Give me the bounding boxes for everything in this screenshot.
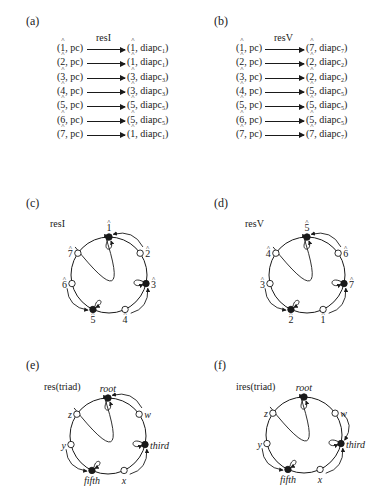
edge-arrow: [112, 394, 142, 408]
circle-graph-c: 1^2^3^4^5^6^7^5^6^7^1^2^3^4^rootwthirdxf…: [0, 0, 381, 498]
node-label: x: [317, 474, 323, 485]
self-loop-arrow: [95, 300, 101, 307]
filled-node: [301, 394, 307, 400]
edge-arrow: [74, 395, 113, 442]
node-label: y: [61, 440, 67, 451]
node-label: y: [257, 439, 263, 450]
self-loop-arrow: [332, 280, 341, 286]
edge-arrow: [67, 288, 88, 310]
filled-node: [341, 280, 347, 286]
open-node: [317, 466, 323, 472]
open-node: [136, 411, 142, 417]
open-node: [75, 250, 81, 256]
edge-arrow: [273, 234, 312, 281]
node-label: third: [346, 439, 366, 450]
edge-arrow: [326, 448, 343, 473]
open-node: [267, 280, 273, 286]
edge-arrow: [75, 234, 114, 281]
open-node: [273, 250, 279, 256]
filled-node: [285, 466, 291, 472]
open-node: [68, 441, 74, 447]
filled-node: [106, 234, 112, 240]
graph-res(triad): rootwthirdxfifthyz: [61, 383, 171, 486]
filled-node: [89, 467, 95, 473]
open-node: [335, 250, 341, 256]
edge-arrow: [262, 448, 283, 470]
node-label: fifth: [280, 474, 296, 485]
node-label: z: [263, 408, 268, 419]
edge-arrow: [270, 394, 309, 441]
node-label: w: [144, 409, 151, 420]
node-label: third: [150, 440, 170, 451]
filled-node: [304, 234, 310, 240]
node-label: z: [67, 409, 72, 420]
filled-node: [143, 280, 149, 286]
self-loop-arrow: [94, 461, 100, 468]
self-loop-arrow: [134, 280, 143, 286]
edge-arrow: [131, 288, 148, 313]
graph-resI: 1^2^3^4^5^6^7^: [62, 218, 156, 325]
edge-arrow: [66, 449, 87, 471]
self-loop-arrow: [329, 440, 338, 446]
open-node: [74, 411, 80, 417]
node-label: fifth: [84, 475, 100, 486]
edge-arrow: [130, 449, 147, 474]
open-node: [121, 467, 127, 473]
node-label: x: [121, 475, 127, 486]
self-loop-arrow: [290, 460, 296, 467]
graph-ires(triad): rootwthirdxfifthyz: [257, 382, 367, 485]
filled-node: [338, 440, 344, 446]
node-label: root: [296, 382, 313, 393]
filled-node: [142, 441, 148, 447]
open-node: [137, 250, 143, 256]
graph-resV: 5^6^7^1^2^3^4^: [260, 218, 354, 325]
filled-node: [105, 395, 111, 401]
self-loop-arrow: [133, 441, 142, 447]
open-node: [332, 410, 338, 416]
node-label: root: [100, 383, 117, 394]
node-label: w: [340, 408, 347, 419]
open-node: [270, 410, 276, 416]
edge-arrow: [311, 233, 341, 247]
edge-arrow: [329, 288, 346, 313]
edge-arrow: [265, 288, 286, 310]
self-loop-arrow: [293, 300, 299, 307]
open-node: [264, 440, 270, 446]
edge-arrow: [113, 233, 143, 247]
open-node: [69, 280, 75, 286]
